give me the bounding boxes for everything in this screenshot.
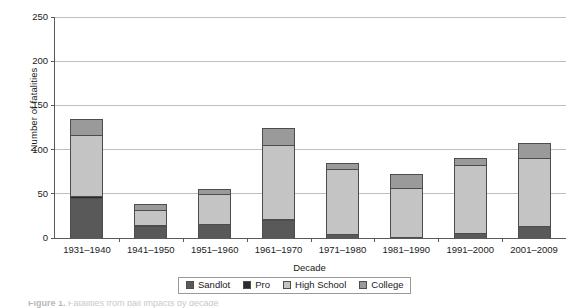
bar-segment-high-school[interactable] [454,165,487,233]
legend-label: Sandlot [198,280,230,290]
legend-item-sandlot[interactable]: Sandlot [186,280,230,290]
bar-segment-sandlot[interactable] [390,237,423,238]
y-tick-label: 150 [32,101,48,111]
legend-swatch-icon [186,281,194,289]
figure-caption: Figure 1. Fatalities from ball impacts b… [28,301,219,308]
legend-swatch-icon [243,281,251,289]
bar-stack[interactable] [454,158,487,238]
gridline [55,149,566,150]
y-tick-label: 50 [37,189,48,199]
x-tick-label: 1941–1950 [127,245,175,255]
x-axis-title: Decade [54,262,565,273]
bar-segment-college[interactable] [70,119,103,136]
figure-caption-label: Figure 1. [28,301,66,308]
legend-label: High School [295,280,346,290]
bar-segment-sandlot[interactable] [326,234,359,238]
y-tick-mark [51,193,55,194]
bar-stack[interactable] [390,174,423,238]
x-tick-mark [502,238,503,242]
y-tick-label: 0 [43,233,48,243]
x-tick-mark [183,238,184,242]
bar-stack[interactable] [262,128,295,238]
x-tick-mark [247,238,248,242]
bar-segment-sandlot[interactable] [70,198,103,238]
chart-figure: Number of fatalities 0501001502002501931… [0,0,580,308]
x-tick-label: 1951–1960 [191,245,239,255]
legend-item-high-school[interactable]: High School [283,280,346,290]
y-tick-mark [51,105,55,106]
y-tick-mark [51,17,55,18]
bar-segment-sandlot[interactable] [198,224,231,238]
x-tick-label: 1961–1970 [255,245,303,255]
x-tick-label: 1971–1980 [319,245,367,255]
bar-segment-high-school[interactable] [262,145,295,219]
bar-segment-high-school[interactable] [390,188,423,237]
bar-segment-college[interactable] [262,128,295,145]
bar-segment-high-school[interactable] [198,194,231,224]
bar-segment-sandlot[interactable] [262,220,295,238]
y-tick-label: 100 [32,145,48,155]
figure-caption-strip: Figure 1. Fatalities from ball impacts b… [0,301,580,308]
y-tick-mark [51,61,55,62]
bar-segment-college[interactable] [518,143,551,158]
x-tick-label: 1981–1990 [383,245,431,255]
bar-stack[interactable] [70,119,103,238]
figure-caption-body: Fatalities from ball impacts by decade [68,301,219,308]
bar-segment-college[interactable] [390,174,423,188]
bar-stack[interactable] [198,189,231,238]
legend-label: College [371,280,403,290]
y-tick-label: 200 [32,56,48,66]
bar-stack[interactable] [134,204,167,238]
legend-item-college[interactable]: College [359,280,403,290]
legend-swatch-icon [359,281,367,289]
bar-segment-high-school[interactable] [134,210,167,224]
bar-segment-high-school[interactable] [70,135,103,196]
x-tick-mark [374,238,375,242]
plot-area: 0501001502002501931–19401941–19501951–19… [54,17,566,239]
legend-swatch-icon [283,281,291,289]
x-tick-mark [438,238,439,242]
gridline [55,17,566,18]
bar-segment-high-school[interactable] [518,158,551,225]
bar-segment-sandlot[interactable] [454,233,487,238]
x-tick-label: 1991–2000 [446,245,494,255]
legend-label: Pro [255,280,270,290]
bar-stack[interactable] [326,163,359,238]
y-tick-label: 250 [32,12,48,22]
legend-item-pro[interactable]: Pro [243,280,270,290]
bar-segment-sandlot[interactable] [134,226,167,238]
gridline [55,193,566,194]
gridline [55,105,566,106]
gridline [55,61,566,62]
chart-legend: SandlotProHigh SchoolCollege [178,277,411,294]
x-tick-mark [311,238,312,242]
bar-segment-sandlot[interactable] [518,226,551,238]
x-tick-label: 2001–2009 [510,245,558,255]
x-tick-mark [119,238,120,242]
y-tick-mark [51,149,55,150]
bar-stack[interactable] [518,143,551,238]
x-tick-label: 1931–1940 [63,245,111,255]
bar-segment-high-school[interactable] [326,169,359,234]
y-tick-mark [51,238,55,239]
